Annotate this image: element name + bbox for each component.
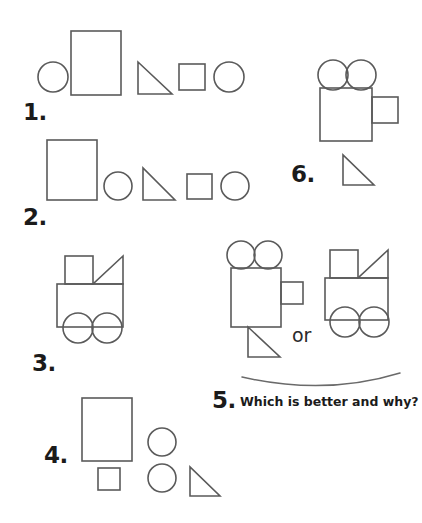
square-shape [281, 282, 303, 304]
rectangle-shape [231, 268, 281, 327]
circle-shape [330, 307, 360, 337]
square-shape [65, 256, 93, 284]
circle-shape [221, 172, 249, 200]
square-shape [330, 250, 358, 278]
item-number-6: 6. [291, 163, 315, 186]
or-connector-label: or [292, 326, 311, 345]
square-shape [372, 97, 398, 123]
item-1-shapes [38, 31, 244, 95]
circle-shape [214, 62, 244, 92]
triangle-shape [138, 62, 172, 94]
rectangle-shape [82, 398, 132, 461]
circle-shape [104, 172, 132, 200]
triangle-shape [93, 256, 123, 284]
triangle-shape [143, 168, 175, 200]
triangle-shape [248, 327, 280, 357]
triangle-shape [343, 155, 374, 185]
triangle-shape [358, 250, 388, 278]
item-2-shapes [47, 140, 249, 200]
circle-shape [359, 307, 389, 337]
item-number-5: 5. [212, 389, 236, 412]
square-shape [98, 468, 120, 490]
square-shape [187, 174, 212, 199]
rectangle-shape [57, 284, 123, 327]
item-5-option-b-truck-figure [325, 250, 389, 337]
rectangle-shape [320, 88, 372, 141]
circle-shape [148, 464, 176, 492]
rectangle-shape [71, 31, 121, 95]
triangle-shape [190, 467, 220, 496]
circle-shape [38, 62, 68, 92]
item-number-1: 1. [23, 101, 47, 124]
circle-shape [318, 60, 348, 90]
item-number-3: 3. [32, 352, 56, 375]
worksheet-page: 1. 2. 3. 4. 5. 6. or Which is better and… [0, 0, 422, 523]
comparison-arc [242, 373, 400, 386]
rectangle-shape [47, 140, 97, 200]
circle-shape [227, 241, 255, 269]
item-4-shapes [82, 398, 220, 496]
item-number-4: 4. [44, 444, 68, 467]
item-6-camera-figure [318, 60, 398, 185]
circle-shape [92, 313, 122, 343]
circle-shape [148, 428, 176, 456]
rectangle-shape [325, 278, 388, 320]
circle-shape [346, 60, 376, 90]
item-3-truck-figure [57, 256, 123, 343]
circle-shape [63, 313, 93, 343]
item-number-2: 2. [23, 206, 47, 229]
question-prompt: Which is better and why? [240, 396, 419, 409]
square-shape [179, 64, 205, 90]
circle-shape [254, 241, 282, 269]
